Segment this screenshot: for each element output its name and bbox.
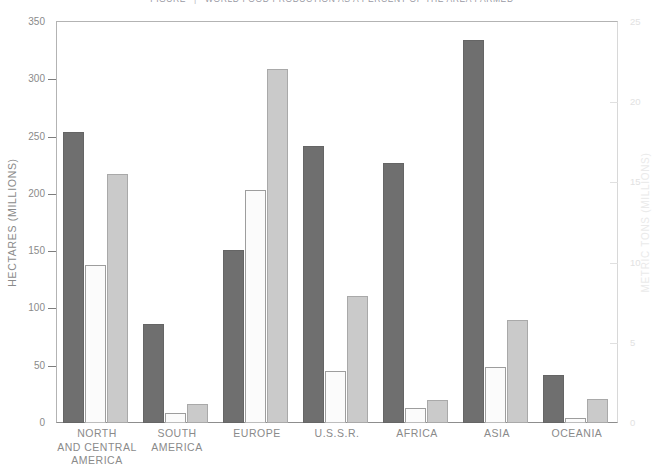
y-tick-right-label: 15 [630,176,641,187]
y-tick-right-label: 10 [630,257,641,268]
y-tick-right-label: 25 [630,16,641,27]
figure-bar-chart: FIGURE | WORLD FOOD PRODUCTION AS A PERC… [0,0,664,470]
bar [325,371,346,423]
y-tick-left-label: 250 [28,131,45,142]
bar [383,163,404,423]
running-head-book-title: FIGURE [150,0,186,4]
running-head-separator: | [194,0,197,4]
bar [463,40,484,423]
bar [405,408,426,423]
y-tick-left-mark [48,194,56,195]
bar [165,413,186,423]
y-tick-left-mark [48,423,56,424]
y-axis-left-title: HECTARES (MILLIONS) [6,22,20,423]
bar [427,400,448,423]
bar [543,375,564,423]
bars-layer [57,22,617,423]
y-tick-left-mark [48,308,56,309]
bar [303,146,324,423]
y-tick-left-mark [48,137,56,138]
bar [63,132,84,423]
bar [85,265,106,423]
y-tick-left-mark [48,366,56,367]
bar [565,418,586,423]
y-tick-left-mark [48,251,56,252]
y-tick-right-label: 0 [630,417,635,428]
y-axis-right-title: METRIC TONS (MILLIONS) [640,22,654,423]
y-tick-right-label: 20 [630,96,641,107]
y-tick-left-label: 150 [28,245,45,256]
y-tick-right-label: 5 [630,337,635,348]
y-tick-left-mark [48,79,56,80]
bar [245,190,266,423]
bar [347,296,368,423]
y-tick-left-label: 100 [28,302,45,313]
bar [267,69,288,423]
y-tick-left-mark [48,22,56,23]
y-tick-left-label: 200 [28,188,45,199]
running-head-caption: WORLD FOOD PRODUCTION AS A PERCENT OF TH… [205,0,514,4]
bar [223,250,244,423]
bar [485,367,506,423]
x-axis-category-label: OCEANIA [527,427,627,441]
y-tick-left-label: 350 [28,16,45,27]
bar [507,320,528,423]
bar [143,324,164,423]
running-head: FIGURE | WORLD FOOD PRODUCTION AS A PERC… [0,0,664,6]
bar [187,404,208,423]
y-tick-left-label: 50 [34,360,45,371]
x-axis: NORTH AND CENTRAL AMERICASOUTH AMERICAEU… [57,427,617,470]
y-tick-left-label: 300 [28,73,45,84]
bar [107,174,128,423]
y-tick-right-mark [610,423,618,424]
y-tick-left-label: 0 [39,417,45,428]
bar [587,399,608,423]
